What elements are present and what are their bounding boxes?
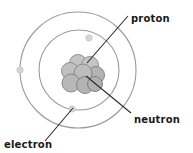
nucleus [62,55,105,94]
neutron-label: neutron [134,114,180,125]
electron-leader-line [45,108,73,141]
proton-leader-line [87,16,128,63]
proton-label: proton [131,13,170,24]
electron-label: electron [4,139,52,150]
electron-outer-left [17,67,23,73]
atom-diagram-canvas: proton neutron electron [0,0,193,153]
atom-structure-diagram: proton neutron electron [0,0,193,153]
electron-inner-upper-right [86,35,92,41]
